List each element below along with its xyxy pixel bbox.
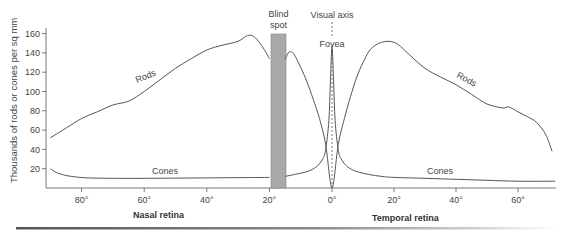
- x-tick-label: 40°: [449, 195, 463, 205]
- cones-label-right: Cones: [427, 166, 454, 176]
- x-tick-label: 60°: [137, 195, 151, 205]
- data-curves: [50, 35, 555, 188]
- y-tick-label: 20: [30, 164, 40, 174]
- y-axis: 20406080100120140160: [25, 28, 46, 188]
- y-tick-label: 100: [25, 87, 40, 97]
- x-tick-label: 20°: [387, 195, 401, 205]
- x-axis: 80°60°40°20°0°20°40°60°: [46, 188, 556, 205]
- rods-label-left: Rods: [134, 68, 158, 85]
- x-tick-label: 60°: [511, 195, 525, 205]
- cones-label-left: Cones: [152, 166, 179, 176]
- rods-curve: [50, 35, 269, 138]
- blind-spot-label-line1: Blind: [268, 9, 288, 19]
- nasal-retina-label: Nasal retina: [133, 210, 185, 220]
- retina-density-chart: 20406080100120140160 80°60°40°20°0°20°40…: [0, 0, 569, 236]
- y-tick-label: 160: [25, 29, 40, 39]
- temporal-retina-label: Temporal retina: [372, 213, 440, 223]
- y-tick-label: 60: [30, 125, 40, 135]
- x-tick-label: 20°: [263, 195, 277, 205]
- y-axis-label: Thousands of rods or cones per sq mm: [8, 18, 19, 183]
- x-tick-label: 80°: [75, 195, 89, 205]
- x-tick-label: 0°: [328, 195, 337, 205]
- y-tick-label: 40: [30, 145, 40, 155]
- x-tick-label: 40°: [200, 195, 214, 205]
- cones-curve: [285, 46, 555, 181]
- y-tick-label: 140: [25, 48, 40, 58]
- blind-spot-band: [271, 34, 286, 188]
- y-tick-label: 120: [25, 67, 40, 77]
- rods-curve: [285, 41, 552, 188]
- visual-axis-label: Visual axis: [311, 10, 354, 20]
- bottom-divider: [16, 227, 556, 230]
- y-tick-label: 80: [30, 106, 40, 116]
- blind-spot-label-line2: spot: [270, 20, 288, 30]
